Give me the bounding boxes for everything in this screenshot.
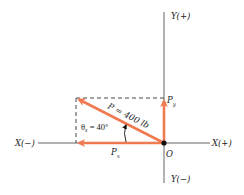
angle-label: θx = 40° [81,122,108,133]
angle-arc [125,125,127,142]
py-label: Py [166,95,177,108]
x-negative-label: X(−) [14,138,35,148]
origin-dot [161,140,166,145]
origin-label: O [166,149,173,159]
force-diagram: Y(+) Y(−) X(−) X(+) O P = 400 lb Py Px θ… [0,0,244,195]
y-positive-label: Y(+) [171,11,190,21]
px-label: Px [110,147,121,159]
y-negative-label: Y(−) [171,174,190,184]
x-positive-label: X(+) [211,138,232,148]
